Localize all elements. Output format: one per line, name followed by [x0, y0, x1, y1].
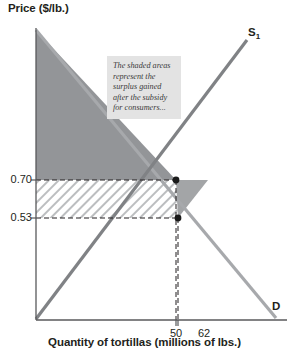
annotation-line-5: for consumers... — [113, 103, 177, 114]
y-axis-title: Price ($/lb.) — [8, 2, 69, 14]
demand-curve-label: D — [272, 300, 280, 312]
region-surplus-gained-hatched — [36, 180, 178, 218]
annotation-line-4: after the subsidy — [113, 93, 177, 104]
annotation-line-3: surplus gained — [113, 82, 177, 93]
data-point-equilibrium-before — [173, 177, 180, 184]
annotation-callout: The shaded areas represent the surplus g… — [107, 56, 181, 119]
chart-container: Price ($/lb.) 0.70 0.53 50 62 Quantity o… — [0, 0, 289, 353]
y-tick-label-053: 0.53 — [2, 211, 32, 223]
supply-curve-label: S1 — [248, 26, 260, 41]
x-axis-title: Quantity of tortillas (millions of lbs.) — [0, 336, 289, 348]
annotation-line-2: represent the — [113, 72, 177, 83]
chart-plot-area — [0, 0, 289, 353]
supply-curve-label-text: S — [248, 26, 256, 38]
annotation-line-1: The shaded areas — [113, 61, 177, 72]
y-tick-label-070: 0.70 — [2, 173, 32, 185]
data-point-equilibrium-after — [175, 215, 182, 222]
supply-curve-label-sub: 1 — [256, 32, 260, 41]
region-surplus-gained-right-solid — [176, 180, 208, 218]
